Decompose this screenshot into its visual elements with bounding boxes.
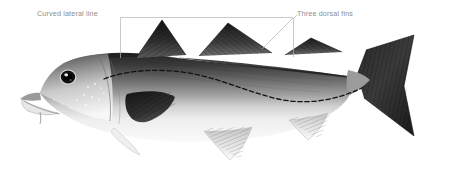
first-anal-fin <box>200 122 258 166</box>
annotation-label-curved-lateral-line: Curved lateral line <box>37 10 98 17</box>
leader-dorsal-2 <box>262 18 293 49</box>
eye <box>60 69 77 84</box>
first-dorsal-fin <box>130 15 192 63</box>
head-shape <box>40 54 113 120</box>
annotation-label-three-dorsal-fins: Three dorsal fins <box>297 10 353 17</box>
fish-illustration <box>0 0 449 172</box>
leader-tick <box>293 15 296 18</box>
fish-anatomy-figure: Curved lateral line Three dorsal fins <box>0 0 449 172</box>
second-dorsal-fin <box>195 18 277 60</box>
snout <box>20 93 41 101</box>
chin-barbel-icon <box>40 112 41 124</box>
third-dorsal-fin <box>281 33 347 59</box>
